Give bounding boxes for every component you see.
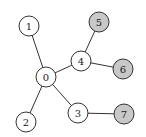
node-label: 1	[26, 21, 32, 32]
node-6: 6	[113, 59, 133, 79]
node-label: 7	[121, 109, 127, 120]
node-label: 6	[120, 64, 126, 75]
node-2: 2	[16, 112, 36, 132]
node-1: 1	[19, 16, 39, 36]
tree-diagram: 01234567	[0, 0, 146, 137]
node-0: 0	[36, 67, 56, 87]
node-label: 0	[43, 72, 49, 83]
node-4: 4	[71, 51, 91, 71]
node-label: 3	[75, 108, 81, 119]
node-label: 4	[78, 56, 84, 67]
node-7: 7	[114, 104, 134, 124]
nodes-layer: 01234567	[16, 12, 134, 132]
node-label: 5	[96, 17, 102, 28]
node-3: 3	[68, 103, 88, 123]
node-label: 2	[23, 117, 29, 128]
node-5: 5	[89, 12, 109, 32]
